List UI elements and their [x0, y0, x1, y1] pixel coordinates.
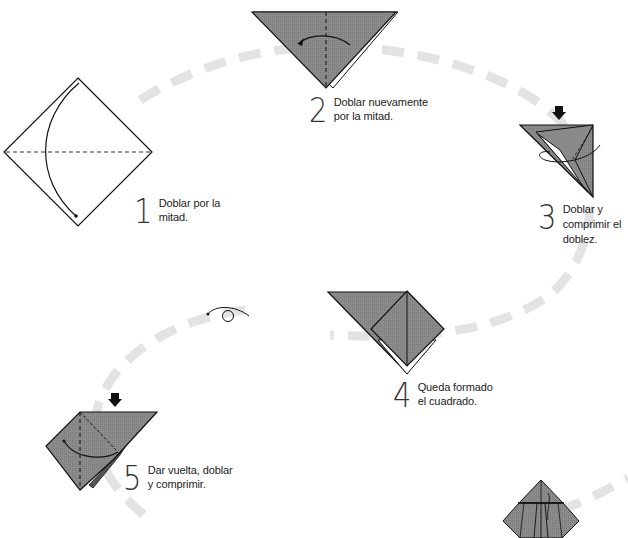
step-6-figure: [503, 480, 579, 538]
step-number: 4: [393, 380, 411, 410]
step-1-figure: [4, 78, 152, 226]
step-number: 1: [134, 196, 152, 226]
step-5-label: 5 Dar vuelta, doblar y comprimir.: [123, 463, 233, 493]
origami-diagram: [0, 0, 628, 538]
push-down-arrow-icon: [108, 393, 122, 407]
step-instructions: Doblar por la mitad.: [159, 196, 221, 224]
step-4-figure: [328, 291, 444, 374]
step-1-label: 1 Doblar por la mitad.: [134, 196, 220, 226]
step-number: 5: [123, 463, 141, 493]
step-number: 2: [309, 95, 327, 125]
step-instructions: Doblar y comprimir el doblez.: [563, 202, 622, 247]
step-2-label: 2 Doblar nuevamente por la mitad.: [309, 95, 428, 125]
step-number: 3: [538, 202, 556, 232]
step-3-label: 3 Doblar y comprimir el doblez.: [538, 202, 621, 247]
fold-arrow-tip-icon: [74, 214, 78, 218]
step-instructions: Doblar nuevamente por la mitad.: [334, 95, 428, 123]
step-instructions: Dar vuelta, doblar y comprimir.: [148, 463, 233, 491]
step-instructions: Queda formado el cuadrado.: [418, 380, 493, 408]
step-2-figure: [252, 12, 398, 88]
step-4-label: 4 Queda formado el cuadrado.: [393, 380, 493, 410]
